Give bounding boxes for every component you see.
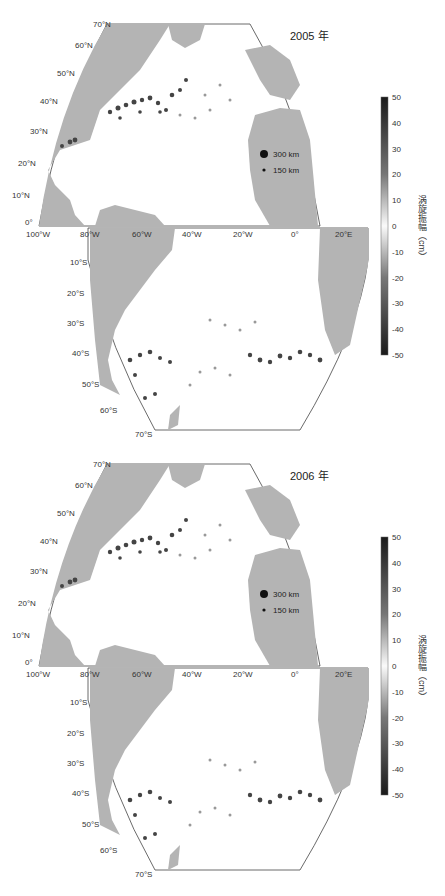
lat-label: 30°N [30,567,48,576]
lat-label: 40°N [40,537,58,546]
lon-label: 20°E [335,230,352,239]
lon-label: 100°W [26,670,51,679]
colorbar-title: 涡旋振幅（cm） [416,635,429,701]
legend-small-marker [262,168,265,171]
lat-label-s: 50°S [82,820,99,829]
colorbar-tick: 10 [392,636,401,645]
lat-label-s: 20°S [67,729,84,738]
lon-label: 100°W [26,230,51,239]
legend-large-label: 300 km [273,150,300,159]
lat-label: 20°N [18,159,36,168]
lat-label-s: 60°S [100,406,117,415]
lon-label: 80°W [80,230,100,239]
map-panel-2005: 70°N 60°N 50°N 40°N 30°N 20°N 10°N 0° 10… [0,0,445,448]
lat-label-s: 70°S [135,430,152,439]
colorbar-tick: 0 [392,222,396,231]
atlantic-eddy-map: 70°N 60°N 50°N 40°N 30°N 20°N 10°N 0° 10… [0,440,445,888]
lat-label: 60°N [75,41,93,50]
legend-large-marker [260,590,268,598]
colorbar-tick: 20 [392,610,401,619]
lat-label: 70°N [93,20,111,29]
colorbar-tick: 50 [392,533,401,542]
lat-label-s: 40°S [72,349,89,358]
legend-small-marker [262,608,265,611]
lat-label-s: 60°S [100,846,117,855]
lon-label: 0° [291,230,299,239]
colorbar-tick: -40 [392,765,404,774]
colorbar-tick: -50 [392,791,404,800]
lon-label: 60°W [132,670,152,679]
lat-label-s: 30°S [67,759,84,768]
legend-small-label: 150 km [273,606,300,615]
lat-label-s: 70°S [135,870,152,879]
lat-label: 0° [25,658,33,667]
lon-label: 60°W [132,230,152,239]
lon-label: 20°E [335,670,352,679]
lat-label-s: 20°S [67,289,84,298]
lat-label: 10°N [12,191,30,200]
legend-large-label: 300 km [273,590,300,599]
lon-label: 40°W [182,230,202,239]
year-label: 2006 年 [290,469,329,482]
lat-label: 0° [25,218,33,227]
colorbar-tick: 20 [392,170,401,179]
colorbar-tick: 30 [392,145,401,154]
colorbar-tick: -20 [392,274,404,283]
legend-small-label: 150 km [273,166,300,175]
colorbar-tick: 10 [392,196,401,205]
colorbar-tick: 0 [392,662,396,671]
lon-label: 0° [291,670,299,679]
lat-label: 10°N [12,631,30,640]
colorbar-tick: -30 [392,299,404,308]
colorbar-tick: -30 [392,739,404,748]
colorbar-tick: -10 [392,688,404,697]
colorbar-tick: -20 [392,714,404,723]
lat-label: 50°N [57,69,75,78]
lat-label: 40°N [40,97,58,106]
lat-label-s: 10°S [70,698,87,707]
lon-label: 40°W [182,670,202,679]
lat-label-s: 30°S [67,319,84,328]
lat-label: 60°N [75,481,93,490]
colorbar-tick: 40 [392,119,401,128]
colorbar-tick: -10 [392,248,404,257]
lat-label-s: 10°S [70,258,87,267]
legend-large-marker [260,150,268,158]
colorbar [381,537,388,795]
lon-label: 20°W [233,230,253,239]
lat-label-s: 40°S [72,789,89,798]
colorbar-tick: -50 [392,351,404,360]
lon-label: 80°W [80,670,100,679]
colorbar-tick: 40 [392,559,401,568]
colorbar-title: 涡旋振幅（cm） [416,195,429,261]
map-panel-2006: 70°N 60°N 50°N 40°N 30°N 20°N 10°N 0° 10… [0,440,445,888]
lon-label: 20°W [233,670,253,679]
lat-label-s: 50°S [82,380,99,389]
lat-label: 70°N [93,460,111,469]
colorbar-tick: 30 [392,585,401,594]
colorbar-tick: 50 [392,93,401,102]
colorbar [381,97,388,355]
lat-label: 50°N [57,509,75,518]
atlantic-eddy-map: 70°N 60°N 50°N 40°N 30°N 20°N 10°N 0° 10… [0,0,445,448]
lat-label: 20°N [18,599,36,608]
lat-label: 30°N [30,127,48,136]
year-label: 2005 年 [290,29,329,42]
colorbar-tick: -40 [392,325,404,334]
